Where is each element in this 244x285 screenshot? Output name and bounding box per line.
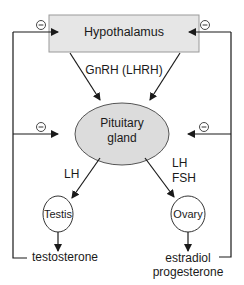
pituitary-label-line1: Pituitary: [82, 117, 162, 130]
lh-right-label: LH: [172, 157, 187, 170]
ovary-label: Ovary: [168, 208, 208, 221]
hypothalamus-label: Hypothalamus: [49, 26, 199, 39]
fsh-right-label: FSH: [172, 172, 196, 185]
lh-left-label: LH: [64, 168, 79, 181]
pituitary-label-line2: gland: [82, 132, 162, 145]
minus-icon-right-top: [201, 21, 210, 30]
minus-icon-left-middle: [37, 123, 46, 132]
progesterone-label: progesterone: [148, 266, 228, 279]
gnrh-label: GnRH (LHRH): [74, 64, 174, 77]
minus-icon-left-top: [37, 21, 46, 30]
testis-label: Testis: [38, 208, 78, 221]
left-feedback-line: [13, 32, 27, 258]
minus-icon-right-middle: [200, 123, 209, 132]
lh-fsh-arrow-right: [145, 158, 174, 197]
estradiol-label: estradiol: [148, 252, 228, 265]
right-feedback-line: [219, 32, 231, 257]
testosterone-label: testosterone: [32, 251, 98, 264]
